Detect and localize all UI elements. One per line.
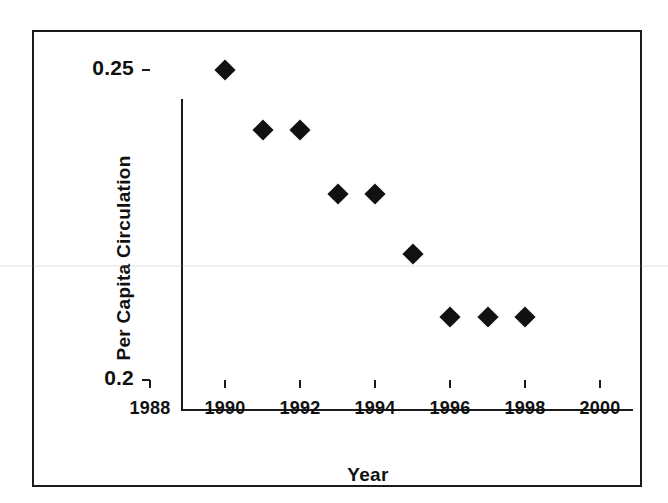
x-axis-tick-label: 1996 [410, 398, 490, 419]
data-point-marker [289, 120, 310, 141]
x-axis-tick [224, 380, 226, 388]
y-axis-title: Per Capita Circulation [113, 118, 135, 398]
x-axis-tick [524, 380, 526, 388]
chart-outer-frame: 0.20.25 1988199019921994199619982000 Yea… [32, 30, 642, 487]
x-axis-tick [149, 380, 151, 388]
y-axis-tick-label: 0.25 [64, 56, 134, 80]
chart-figure: 0.20.25 1988199019921994199619982000 Yea… [0, 0, 668, 503]
x-axis-tick [449, 380, 451, 388]
x-axis-tick-label: 1994 [335, 398, 415, 419]
x-axis-tick [299, 380, 301, 388]
x-axis-tick-label: 1992 [260, 398, 340, 419]
x-axis-title: Year [34, 464, 668, 486]
data-point-marker [477, 306, 498, 327]
y-axis-tick [142, 69, 150, 71]
x-axis-tick [374, 380, 376, 388]
data-point-marker [327, 183, 348, 204]
x-axis-tick-label: 1990 [185, 398, 265, 419]
x-axis-tick-label: 1988 [110, 398, 190, 419]
x-axis-tick [599, 380, 601, 388]
data-point-marker [252, 120, 273, 141]
data-point-marker [514, 306, 535, 327]
x-axis-tick-label: 2000 [560, 398, 640, 419]
data-point-marker [214, 59, 235, 80]
data-point-marker [402, 244, 423, 265]
y-axis-line [181, 99, 183, 411]
data-point-marker [364, 183, 385, 204]
data-point-marker [439, 306, 460, 327]
x-axis-tick-label: 1998 [485, 398, 565, 419]
